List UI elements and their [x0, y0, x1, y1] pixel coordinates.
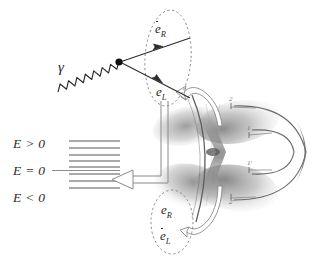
- photon-wavy-line: [55, 61, 122, 92]
- loop-label-2: 2: [229, 96, 233, 103]
- particle-label-e-L: eL: [156, 85, 167, 101]
- physics-diagram: γ eR eL eR eL E > 0 E = 0 E < 0 2 1 1' 2…: [0, 0, 329, 263]
- loop-label-2-prime: 2': [229, 199, 234, 206]
- energy-label-positive: E > 0: [13, 137, 45, 151]
- energy-label-zero: E = 0: [13, 164, 45, 178]
- energy-label-negative: E < 0: [13, 191, 45, 205]
- fermion-line-lower: [120, 62, 190, 98]
- double-line-arrow-head: [112, 170, 133, 189]
- cone-waist-center: [206, 148, 220, 156]
- particle-label-ebar-L: eL: [160, 229, 171, 245]
- double-line-arrow-to-levels: [112, 101, 168, 189]
- fermion-line-upper: [120, 38, 190, 62]
- loop-label-1: 1: [247, 125, 251, 132]
- dirac-sea-energy-levels: [52, 141, 120, 188]
- diagram-canvas: [0, 0, 329, 263]
- particle-label-ebar-R: eR: [155, 22, 166, 38]
- interaction-vertex: [115, 58, 122, 65]
- particle-label-e-R: eR: [161, 203, 172, 219]
- photon-label: γ: [58, 60, 64, 75]
- loop-label-1-prime: 1': [247, 160, 252, 167]
